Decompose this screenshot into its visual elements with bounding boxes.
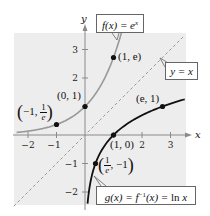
legend-g-ln: g(x) = f−1(x) = ln x: [96, 186, 196, 205]
y-axis-arrow-icon: [83, 24, 88, 31]
legend-yx-text: y = x: [170, 65, 193, 77]
y-axis-label: y: [80, 13, 87, 24]
legend-g-text-b: (x) =: [146, 191, 171, 203]
label-point-0-1: (0, 1): [57, 89, 81, 101]
legend-g-sup: −1: [138, 191, 145, 199]
y-tick-label: 3: [72, 45, 78, 55]
label-point-e-1: (e, 1): [136, 92, 159, 104]
x-tick-label: −1: [47, 140, 60, 150]
x-tick-label: −2: [21, 140, 34, 150]
point-1-e: [111, 55, 116, 60]
legend-identity: y = x: [165, 62, 198, 80]
label-point-1-0: (1, 0): [110, 138, 134, 150]
legend-f-text: f(x) = e: [102, 19, 135, 31]
label-text: , −1: [111, 158, 128, 170]
legend-g-ln: ln: [171, 191, 180, 203]
y-tick-label: −1: [65, 159, 78, 169]
legend-f-sup: x: [135, 19, 138, 27]
label-point-neg1-inv-e: (−1, 1e): [17, 102, 53, 123]
x-tick-label: 2: [139, 140, 145, 150]
paren-close: ): [128, 155, 134, 175]
x-tick-label: 3: [168, 140, 174, 150]
legend-g-text-a: g(x) = f: [105, 191, 139, 203]
legend-f-exp: f(x) = ex: [96, 14, 144, 33]
point-neg1-inv-e: [54, 122, 59, 127]
y-tick-label: −2: [65, 187, 78, 197]
x-axis-label: x: [195, 129, 201, 140]
legend-g-x: x: [180, 191, 188, 203]
point-0-1: [82, 104, 87, 109]
label-point-inv-e-neg1: (1e, −1): [98, 155, 134, 176]
x-axis-arrow-icon: [185, 133, 192, 138]
paren-close: ): [47, 102, 53, 122]
label-text: −1,: [23, 105, 40, 117]
point-e-1: [160, 104, 165, 109]
label-point-1-e: (1, e): [118, 50, 141, 62]
point-1-0: [111, 132, 116, 137]
y-tick-label: 2: [72, 73, 78, 83]
